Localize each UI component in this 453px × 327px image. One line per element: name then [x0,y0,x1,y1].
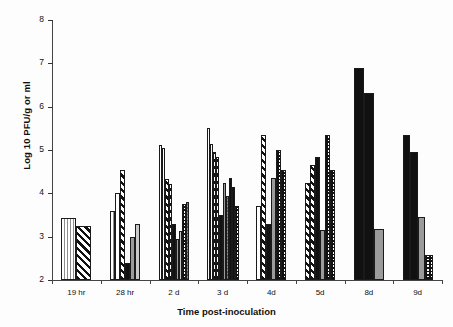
x-tick-label: 28 hr [101,288,150,297]
y-tick-label: 4 [26,187,44,197]
x-tick-label: 4d [247,288,296,297]
x-tick-mark [52,280,53,284]
x-tick-mark [296,280,297,284]
y-tick-label: 2 [26,274,44,284]
bar [76,226,91,280]
y-tick-label: 5 [26,144,44,154]
x-tick-label: 19 hr [52,288,101,297]
x-tick-mark [345,280,346,284]
x-tick-mark [150,280,151,284]
x-axis-title: Time post-inoculation [0,306,453,317]
bar [61,218,76,280]
bar [418,217,426,280]
y-tick-label: 8 [26,14,44,24]
y-tick-label: 3 [26,231,44,241]
x-tick-mark [393,280,394,284]
x-tick-label: 5d [296,288,345,297]
y-axis-title: Log 10 PFU/g or ml [21,56,32,196]
x-tick-mark [101,280,102,284]
bar [410,152,418,280]
bar [330,170,335,281]
x-tick-mark [247,280,248,284]
plot-area [52,20,442,280]
x-tick-mark [442,280,443,284]
bar [135,224,140,280]
x-tick-label: 8d [345,288,394,297]
x-tick-label: 2 d [150,288,199,297]
bar [235,206,238,280]
bar [374,229,384,280]
bar [354,68,364,280]
bar [364,93,374,280]
bar-chart: Log 10 PFU/g or ml Time post-inoculation… [0,0,453,327]
x-tick-label: 3 d [198,288,247,297]
y-tick-label: 7 [26,57,44,67]
bar [281,170,286,281]
bar [186,202,189,280]
y-tick-label: 6 [26,101,44,111]
bar [425,255,433,280]
bar [403,135,411,280]
x-tick-label: 9d [393,288,442,297]
x-tick-mark [198,280,199,284]
